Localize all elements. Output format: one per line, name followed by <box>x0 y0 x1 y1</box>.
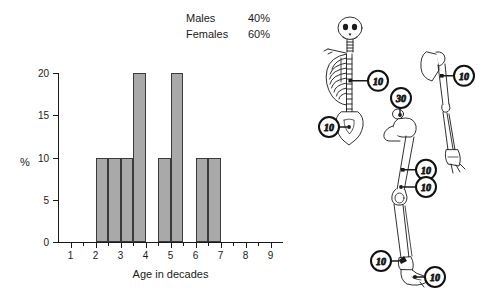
marker-spine: 10 <box>349 71 389 91</box>
histogram-bar <box>108 158 121 243</box>
marker-label-foot: 10 <box>430 272 440 283</box>
marker-label-femur-shaft: 10 <box>421 165 431 176</box>
histogram-bar <box>96 158 109 243</box>
x-tick <box>196 242 197 248</box>
x-axis-title: Age in decades <box>58 268 283 280</box>
row-value-females: 60% <box>248 26 282 42</box>
x-tick-label: 8 <box>243 250 249 261</box>
row-value-males: 40% <box>248 10 282 26</box>
histogram-bars <box>58 73 276 242</box>
marker-label-pelvis: 10 <box>324 122 334 133</box>
x-tick <box>83 242 84 246</box>
x-tick <box>233 242 234 246</box>
x-tick-label: 4 <box>143 250 149 261</box>
x-tick-label: 2 <box>93 250 99 261</box>
histogram-bar <box>208 158 221 243</box>
x-tick <box>208 242 209 246</box>
row-label-males: Males <box>186 10 248 26</box>
marker-label-humerus: 10 <box>459 71 469 82</box>
x-tick <box>183 242 184 246</box>
y-tick-label: 15 <box>27 110 49 121</box>
histogram-bar <box>171 73 184 242</box>
skeleton-fracture-diagram: 10 10 10 <box>308 8 490 296</box>
x-tick <box>133 242 134 246</box>
figure-root: Males 40% Females 60% % 05101520 1234567… <box>0 0 490 296</box>
marker-label-spine: 10 <box>373 76 383 87</box>
y-tick-label: 20 <box>27 68 49 79</box>
y-tick-label: 5 <box>27 194 49 205</box>
x-tick <box>221 242 222 248</box>
histogram-bar <box>133 73 146 242</box>
x-tick <box>71 242 72 248</box>
sex-distribution-table: Males 40% Females 60% <box>186 10 282 42</box>
x-tick <box>258 242 259 246</box>
x-tick-label: 3 <box>118 250 124 261</box>
x-tick <box>108 242 109 246</box>
x-tick <box>171 242 172 248</box>
x-tick-label: 6 <box>193 250 199 261</box>
x-tick <box>271 242 272 248</box>
age-distribution-histogram: % 05101520 123456789 Age in decades <box>0 60 300 296</box>
y-tick-label: 10 <box>27 152 49 163</box>
marker-label-femoral-neck: 30 <box>395 93 406 104</box>
table-row: Males 40% <box>186 10 282 26</box>
x-tick <box>246 242 247 248</box>
row-label-females: Females <box>186 26 248 42</box>
x-tick-label: 1 <box>68 250 74 261</box>
y-tick-label: 0 <box>27 237 49 248</box>
histogram-bar <box>196 158 209 243</box>
y-tick <box>53 242 58 243</box>
x-tick-label: 7 <box>218 250 224 261</box>
table-row: Females 60% <box>186 26 282 42</box>
x-tick <box>121 242 122 248</box>
marker-label-distal-tibia: 10 <box>376 256 386 267</box>
x-tick-label: 9 <box>268 250 274 261</box>
x-tick <box>158 242 159 246</box>
x-tick-label: 5 <box>168 250 174 261</box>
x-tick <box>96 242 97 248</box>
histogram-bar <box>158 158 171 243</box>
x-tick <box>146 242 147 248</box>
marker-label-distal-femur: 10 <box>421 182 431 193</box>
histogram-bar <box>121 158 134 243</box>
